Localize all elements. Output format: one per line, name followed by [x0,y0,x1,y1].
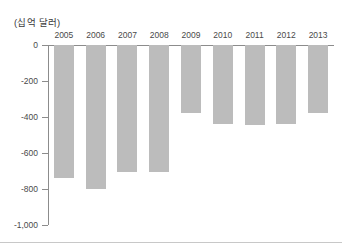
bar [308,45,328,113]
y-axis-tick [42,153,48,154]
y-axis-unit-label: (십억 달러) [14,15,60,29]
x-axis-tick-label: 2013 [298,30,338,40]
y-axis-tick-label: -200 [21,76,38,86]
y-axis-tick [42,117,48,118]
y-axis-tick [42,225,48,226]
y-axis-tick [42,81,48,82]
bar [149,45,169,172]
bar [54,45,74,178]
bar [213,45,233,124]
chart-figure: (십억 달러) 0-200-400-600-800-1,000 20052006… [0,0,342,243]
bar [181,45,201,113]
y-axis-tick-label: 0 [33,40,38,50]
y-axis-tick [42,189,48,190]
y-axis-tick [42,45,48,46]
y-axis-tick-label: -800 [21,184,38,194]
bar [245,45,265,125]
bar [86,45,106,189]
y-axis-tick-label: -600 [21,148,38,158]
y-axis-tick-label: -400 [21,112,38,122]
y-axis-line [48,45,49,225]
bar [117,45,137,172]
y-axis-tick-label: -1,000 [14,220,38,230]
bar [276,45,296,124]
